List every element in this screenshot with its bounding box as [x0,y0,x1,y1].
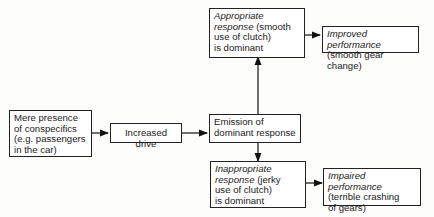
node-emission: Emission of dominant response [209,114,301,143]
node-appropriate-response: Appropriate response (smooth use of clut… [209,8,305,58]
node-inappropriate-response: Inappropriate response (jerky use of clu… [210,161,306,208]
node-improved-performance: Improved performance (smooth gear change… [322,26,419,53]
node-impaired-performance: Impaired performance (terrible crashing … [323,168,421,206]
node-increased-drive: Increased drive [110,123,182,143]
node-mere-presence: Mere presence of conspecifics (e.g. pass… [9,110,92,157]
